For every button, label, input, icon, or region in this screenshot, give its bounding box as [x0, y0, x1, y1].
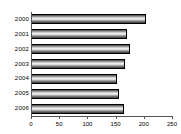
- x-axis-tick: [59, 116, 60, 119]
- bar: [31, 89, 119, 99]
- y-axis-tick-label: 2003: [2, 61, 29, 68]
- bar-row: [31, 29, 172, 39]
- bar-row: [31, 14, 172, 24]
- bar: [31, 74, 117, 84]
- bar-row: [31, 89, 172, 99]
- x-axis-tick: [31, 116, 32, 119]
- bar-row: [31, 44, 172, 54]
- bar-row: [31, 74, 172, 84]
- x-axis-tick-label: 250: [162, 120, 181, 128]
- y-axis-tick-label: 2001: [2, 31, 29, 38]
- x-axis-tick: [87, 116, 88, 119]
- bar: [31, 59, 125, 69]
- y-axis-tick-label: 2002: [2, 46, 29, 53]
- x-axis-tick: [116, 116, 117, 119]
- bar-row: [31, 104, 172, 114]
- y-axis-tick-label: 2006: [2, 105, 29, 112]
- y-axis-tick-label: 2000: [2, 16, 29, 23]
- plot-area: [31, 12, 172, 116]
- bar: [31, 29, 127, 39]
- y-axis-tick-label: 2004: [2, 75, 29, 82]
- bar: [31, 14, 146, 24]
- bar-chart: 2000 2001 2002 2003 2004 2005 2006 05010…: [0, 0, 181, 134]
- x-axis-tick-label: 0: [21, 120, 41, 128]
- x-axis-tick-label: 100: [77, 120, 97, 128]
- x-axis-line: [31, 116, 173, 117]
- y-axis-line: [31, 12, 32, 117]
- y-axis-labels: 2000 2001 2002 2003 2004 2005 2006: [0, 12, 29, 116]
- x-axis-tick: [172, 116, 173, 119]
- x-axis-tick-label: 200: [134, 120, 154, 128]
- x-axis-tick-label: 150: [106, 120, 126, 128]
- bar: [31, 104, 124, 114]
- x-axis-tick: [144, 116, 145, 119]
- bar: [31, 44, 130, 54]
- x-axis-tick-label: 50: [49, 120, 69, 128]
- bar-row: [31, 59, 172, 69]
- y-axis-tick-label: 2005: [2, 90, 29, 97]
